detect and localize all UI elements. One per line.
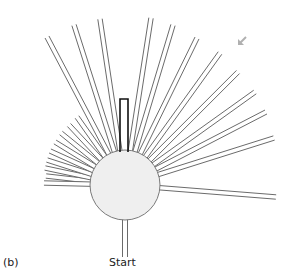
- maze-arm-right-horizontal: [159, 186, 276, 200]
- panel-label: (b): [3, 256, 19, 269]
- start-alley-fill: [123, 218, 128, 257]
- start-label: Start: [109, 256, 136, 269]
- radial-arm-maze: [0, 0, 284, 278]
- central-hub: [90, 150, 160, 220]
- maze-arm-left-horizontal: [44, 181, 91, 187]
